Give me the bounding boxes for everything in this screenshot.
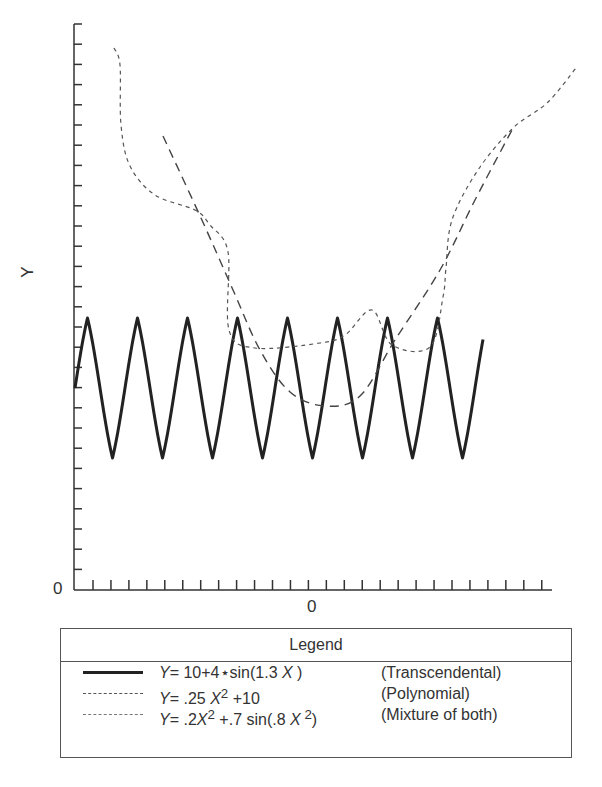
dotted-line-swatch-icon [83, 714, 143, 715]
chart-plot-area [0, 0, 602, 620]
series-mixture-line [114, 48, 576, 352]
y-axis-label: Y [18, 266, 38, 277]
series-polynomial-line [163, 128, 513, 406]
y-axis-ticks [74, 24, 82, 569]
legend-description: (Transcendental) [381, 662, 501, 683]
y-origin-label: 0 [53, 579, 62, 599]
legend-row-mixture: Y= .2X2 +.7 sin(.8 X 2) (Mixture of both… [61, 704, 571, 725]
legend-row-transcendental: Y= 10+4⋆sin(1.3 X ) (Transcendental) [61, 662, 571, 683]
dashed-line-swatch-icon [83, 693, 143, 694]
legend-row-polynomial: Y= .25 X2 +10 (Polynomial) [61, 683, 571, 704]
solid-line-swatch-icon [83, 671, 143, 674]
series-transcendental-line [75, 318, 483, 458]
legend: Legend Y= 10+4⋆sin(1.3 X ) (Transcendent… [60, 628, 572, 758]
x-center-label: 0 [307, 597, 316, 617]
legend-description: (Polynomial) [381, 683, 470, 704]
legend-equation: Y= .2X2 +.7 sin(.8 X 2) [159, 704, 317, 730]
legend-equation: Y= 10+4⋆sin(1.3 X ) [159, 662, 302, 683]
axes [74, 24, 552, 590]
x-axis-ticks [93, 580, 542, 590]
legend-description: (Mixture of both) [381, 704, 497, 725]
legend-title: Legend [61, 629, 571, 662]
